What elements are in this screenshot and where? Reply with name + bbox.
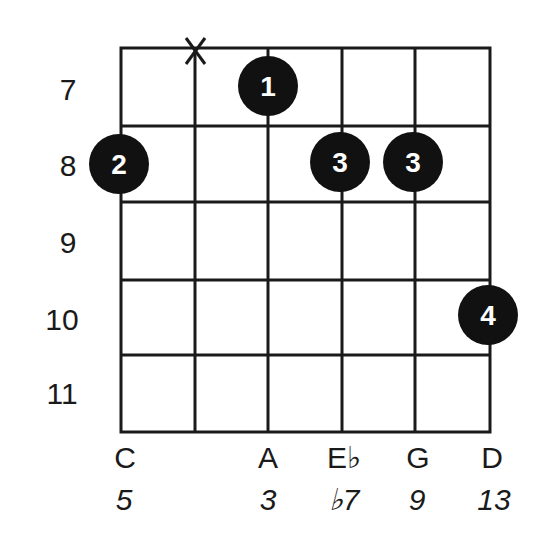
- note-label: G: [406, 441, 429, 474]
- finger-dot-1: 1: [238, 56, 298, 116]
- fret-label-11: 11: [46, 377, 77, 410]
- note-label: D: [481, 441, 503, 474]
- svg-text:3: 3: [332, 147, 348, 178]
- svg-text:1: 1: [260, 71, 276, 102]
- svg-text:4: 4: [480, 300, 496, 331]
- interval-label: 3: [260, 483, 277, 516]
- fretboard-border: [121, 48, 490, 432]
- fretboard-grid: [121, 48, 490, 432]
- interval-names: 5 3 ♭7 9 13: [116, 483, 511, 516]
- finger-dot-4: 4: [458, 285, 518, 345]
- fret-label-7: 7: [60, 73, 77, 106]
- interval-label: ♭7: [329, 483, 361, 516]
- note-label: E♭: [327, 441, 361, 474]
- interval-label: 13: [477, 483, 511, 516]
- finger-dot-3a: 3: [310, 132, 370, 192]
- svg-text:2: 2: [111, 149, 127, 180]
- fret-label-9: 9: [60, 226, 77, 259]
- finger-dot-2: 2: [89, 134, 149, 194]
- interval-label: 5: [116, 483, 133, 516]
- note-names: C A E♭ G D: [114, 441, 503, 474]
- chord-diagram: 7 8 9 10 11 1 2 3 3 4 C A E♭ G D: [0, 0, 542, 545]
- fret-label-8: 8: [60, 149, 77, 182]
- fret-label-10: 10: [45, 303, 78, 336]
- interval-label: 9: [409, 483, 426, 516]
- fret-numbers: 7 8 9 10 11: [45, 73, 78, 410]
- note-label: A: [258, 441, 278, 474]
- finger-dot-3b: 3: [383, 132, 443, 192]
- svg-text:3: 3: [405, 147, 421, 178]
- note-label: C: [114, 441, 136, 474]
